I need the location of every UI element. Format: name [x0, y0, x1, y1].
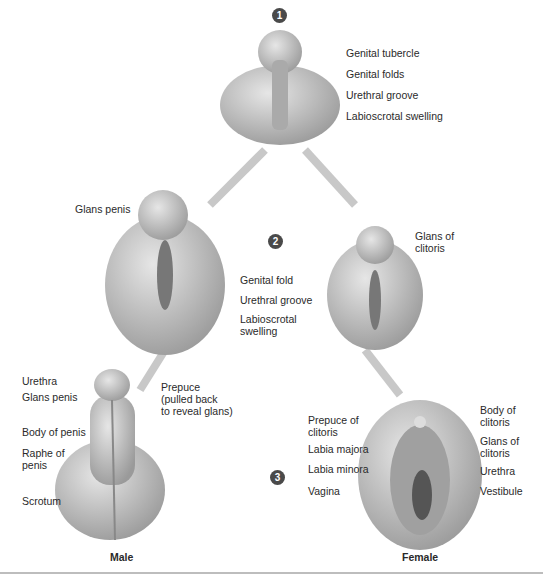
label-body-of-penis: Body of penis	[22, 426, 86, 438]
label-urethral-groove-stage2: Urethral groove	[240, 294, 312, 306]
label-labioscrotal-swelling: Labioscrotal swelling	[346, 110, 443, 122]
label-scrotum: Scrotum	[22, 495, 61, 507]
label-glans-of-clitoris: Glans of clitoris	[480, 435, 519, 459]
label-labia-minora: Labia minora	[308, 463, 369, 475]
caption-female: Female	[402, 551, 438, 563]
label-genital-tubercle: Genital tubercle	[346, 47, 420, 59]
label-vestibule: Vestibule	[480, 485, 523, 497]
label-genital-folds: Genital folds	[346, 68, 404, 80]
label-urethra-female: Urethra	[480, 465, 515, 477]
label-raphe-of-penis: Raphe of penis	[22, 447, 65, 471]
label-glans-penis-stage2: Glans penis	[75, 203, 130, 215]
step-3-badge: 3	[270, 470, 285, 485]
label-vagina: Vagina	[308, 485, 340, 497]
female-stage-2-illustration	[327, 226, 423, 350]
label-labioscrotal-swelling-stage2: Labioscrotal swelling	[240, 313, 297, 337]
arrow-to-female-adult	[365, 350, 400, 395]
indifferent-stage-illustration	[220, 30, 340, 145]
caption-male: Male	[110, 551, 133, 563]
label-body-of-clitoris: Body of clitoris	[480, 404, 516, 428]
diagram-artwork	[0, 0, 543, 582]
label-glans-penis: Glans penis	[22, 391, 77, 403]
arrow-to-female	[305, 150, 355, 205]
female-adult-illustration	[358, 400, 482, 550]
step-2-badge: 2	[268, 234, 283, 249]
arrow-to-male	[210, 150, 265, 205]
label-urethral-groove: Urethral groove	[346, 89, 418, 101]
label-glans-of-clitoris-stage2: Glans of clitoris	[415, 230, 454, 254]
label-urethra-male: Urethra	[22, 375, 57, 387]
label-prepuce-of-clitoris: Prepuce of clitoris	[308, 414, 359, 438]
label-labia-majora: Labia majora	[308, 443, 369, 455]
label-genital-fold: Genital fold	[240, 274, 293, 286]
bottom-divider	[0, 572, 543, 574]
label-prepuce: Prepuce (pulled back to reveal glans)	[161, 381, 233, 417]
step-1-badge: 1	[272, 8, 287, 23]
